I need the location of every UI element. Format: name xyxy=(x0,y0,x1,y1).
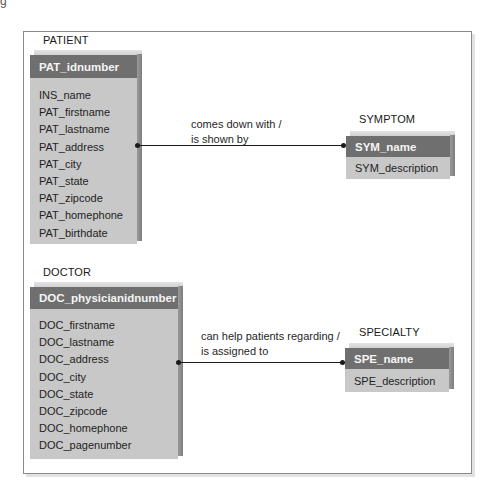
connector-dot xyxy=(176,360,181,365)
relationship-label-doctor-specialty: can help patients regarding / is assigne… xyxy=(201,329,340,359)
bevel-side xyxy=(178,286,183,456)
primary-key: DOC_physicianidnumber xyxy=(30,287,178,309)
entity-specialty[interactable]: SPE_name SPE_description xyxy=(345,343,454,392)
relationship-label-line1: comes down with / xyxy=(191,117,281,132)
attribute: DOC_state xyxy=(39,386,169,403)
cropped-caption-fragment: g xyxy=(0,0,7,8)
relationship-label-line2: is assigned to xyxy=(201,344,340,359)
attribute: PAT_birthdate xyxy=(39,225,128,242)
bevel-side xyxy=(450,135,455,176)
attribute: PAT_city xyxy=(39,156,128,173)
entity-doctor[interactable]: DOC_physicianidnumber DOC_firstname DOC_… xyxy=(30,282,183,459)
attribute: INS_name xyxy=(39,87,128,104)
entity-label-doctor: DOCTOR xyxy=(43,266,91,278)
connector-dot xyxy=(135,143,140,148)
entity-body: SPE_name SPE_description xyxy=(345,348,449,392)
attribute: PAT_zipcode xyxy=(39,190,128,207)
attribute: DOC_homephone xyxy=(39,420,169,437)
attribute-list: INS_name PAT_firstname PAT_lastname PAT_… xyxy=(30,78,137,242)
attribute: SPE_description xyxy=(345,369,449,392)
entity-body: DOC_physicianidnumber DOC_firstname DOC_… xyxy=(30,287,178,459)
primary-key: PAT_idnumber xyxy=(30,55,137,78)
attribute: PAT_state xyxy=(39,173,128,190)
attribute: PAT_homephone xyxy=(39,207,128,224)
primary-key: SYM_name xyxy=(346,136,450,157)
entity-body: SYM_name SYM_description xyxy=(346,136,450,179)
entity-patient[interactable]: PAT_idnumber INS_name PAT_firstname PAT_… xyxy=(30,50,142,244)
relationship-line-doctor-specialty[interactable] xyxy=(178,362,342,363)
attribute: DOC_address xyxy=(39,351,169,368)
entity-label-specialty: SPECIALTY xyxy=(359,326,420,338)
attribute: PAT_firstname xyxy=(39,104,128,121)
primary-key: SPE_name xyxy=(345,348,449,369)
relationship-line-patient-symptom[interactable] xyxy=(137,145,343,146)
attribute: SYM_description xyxy=(346,157,450,179)
relationship-label-line1: can help patients regarding / xyxy=(201,329,340,344)
bevel-side xyxy=(449,347,454,389)
attribute: DOC_pagenumber xyxy=(39,437,169,454)
attribute: DOC_lastname xyxy=(39,334,169,351)
entity-label-patient: PATIENT xyxy=(43,34,89,46)
entity-body: PAT_idnumber INS_name PAT_firstname PAT_… xyxy=(30,55,137,244)
attribute: DOC_city xyxy=(39,369,169,386)
attribute: PAT_lastname xyxy=(39,121,128,138)
attribute: PAT_address xyxy=(39,139,128,156)
attribute-list: DOC_firstname DOC_lastname DOC_address D… xyxy=(30,309,178,455)
entity-label-symptom: SYMPTOM xyxy=(359,113,415,125)
entity-symptom[interactable]: SYM_name SYM_description xyxy=(346,131,455,179)
attribute: DOC_zipcode xyxy=(39,403,169,420)
attribute: DOC_firstname xyxy=(39,317,169,334)
relationship-label-patient-symptom: comes down with / is shown by xyxy=(191,117,281,147)
